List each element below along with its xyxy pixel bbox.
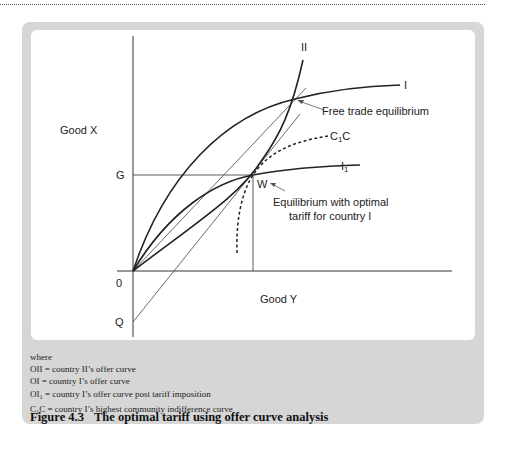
optimal-arrowhead-icon	[270, 183, 276, 187]
free-trade-arrowhead-icon	[297, 100, 304, 104]
y-axis-label: Good X	[60, 124, 97, 136]
legend-item: OI = country I’s offer curve	[30, 375, 233, 387]
curve-i1-label: I1	[341, 160, 348, 174]
community-indifference-curve-c1c	[237, 136, 328, 253]
free-trade-terms-line	[133, 88, 306, 271]
g-label: G	[116, 169, 125, 181]
optimal-annotation-line2: tariff for country I	[289, 210, 371, 222]
curve-i-label: I	[404, 79, 407, 91]
point-w-label: W	[257, 178, 267, 190]
figure-number: Figure 4.3	[30, 410, 84, 424]
q-label: Q	[115, 316, 124, 328]
c1c-main: C	[330, 130, 338, 142]
terms-of-trade-line-qw	[133, 114, 300, 322]
free-trade-annotation: Free trade equilibrium	[322, 105, 429, 117]
legend-item: OI1 = country I’s offer curve post tarif…	[30, 388, 233, 403]
legend: where OII = country II’s offer curve OI …	[30, 351, 233, 418]
figure-caption: Figure 4.3The optimal tariff using offer…	[30, 410, 328, 425]
origin-label: 0	[116, 277, 122, 289]
legend-intro: where	[30, 351, 233, 363]
curve-c1c-label: C1C	[330, 130, 350, 144]
legend-item: OII = country II’s offer curve	[30, 363, 233, 375]
c1c-end: C	[342, 130, 350, 142]
optimal-annotation-line1: Equilibrium with optimal	[273, 196, 389, 208]
x-axis-label: Good Y	[260, 293, 297, 305]
figure-title: The optimal tariff using offer curve ana…	[94, 410, 328, 424]
offer-curve-oii	[133, 60, 303, 271]
curve-i1-label-sub: 1	[344, 165, 348, 174]
curve-ii-label: II	[301, 41, 307, 53]
